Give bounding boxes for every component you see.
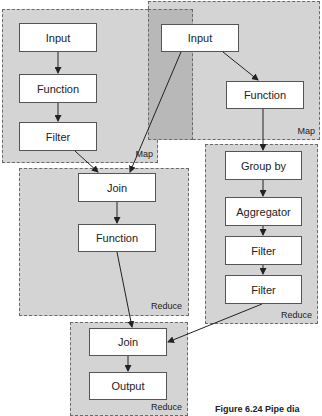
node-reduce1-join: Join (78, 173, 156, 202)
node-reduce3-join: Join (89, 328, 167, 356)
group-label: Map (297, 126, 315, 136)
group-label: Reduce (281, 310, 312, 320)
node-reduce1-function: Function (78, 224, 156, 252)
node-reduce3-output: Output (89, 372, 167, 400)
group-label: Reduce (151, 402, 182, 412)
node-reduce2-aggregator: Aggregator (225, 197, 302, 226)
node-map1-filter: Filter (19, 122, 97, 151)
node-reduce2-groupby: Group by (225, 151, 302, 180)
figure-caption: Figure 6.24 Pipe dia (215, 404, 300, 414)
node-reduce2-filter2: Filter (225, 275, 302, 304)
node-map1-input: Input (19, 23, 97, 52)
node-map2-function: Function (226, 81, 304, 109)
group-label: Reduce (151, 301, 182, 311)
node-map2-input: Input (161, 24, 239, 52)
node-reduce2-filter1: Filter (225, 236, 302, 265)
node-map1-function: Function (19, 74, 97, 103)
group-label: Map (135, 149, 153, 159)
